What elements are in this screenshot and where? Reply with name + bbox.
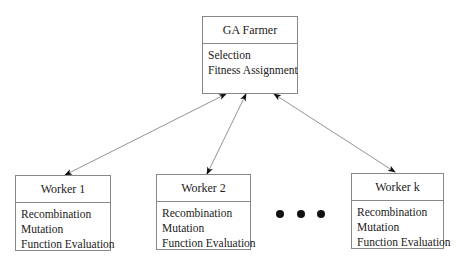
worker-1-tasks: Recombination Mutation Function Evaluati…: [16, 203, 110, 252]
ellipsis-dot: [276, 210, 284, 218]
task-item: Recombination: [21, 207, 110, 222]
arrow-farmer-worker1: [65, 94, 226, 175]
task-item: Mutation: [357, 220, 443, 235]
arrow-farmer-workerk: [274, 94, 395, 172]
worker-2-tasks: Recombination Mutation Function Evaluati…: [157, 202, 250, 251]
task-item: Selection: [208, 48, 297, 63]
worker-k-tasks: Recombination Mutation Function Evaluati…: [352, 201, 443, 250]
worker-2-title: Worker 2: [157, 175, 250, 202]
worker-2-box: Worker 2 Recombination Mutation Function…: [156, 174, 251, 250]
arrow-farmer-worker2: [207, 94, 246, 174]
ellipsis-dot: [317, 210, 325, 218]
task-item: Function Evaluation: [357, 235, 443, 250]
worker-1-box: Worker 1 Recombination Mutation Function…: [15, 175, 111, 251]
task-item: Function Evaluation: [162, 236, 250, 251]
task-item: Mutation: [162, 221, 250, 236]
task-item: Function Evaluation: [21, 237, 110, 252]
worker-k-title: Worker k: [352, 174, 443, 201]
task-item: Mutation: [21, 222, 110, 237]
worker-k-box: Worker k Recombination Mutation Function…: [351, 173, 444, 249]
ga-farmer-box: GA Farmer Selection Fitness Assignment: [202, 16, 298, 94]
worker-1-title: Worker 1: [16, 176, 110, 203]
ellipsis-dot: [297, 210, 305, 218]
ga-farmer-tasks: Selection Fitness Assignment: [203, 44, 297, 78]
task-item: Fitness Assignment: [208, 63, 297, 78]
task-item: Recombination: [162, 206, 250, 221]
task-item: Recombination: [357, 205, 443, 220]
ga-farmer-title: GA Farmer: [203, 17, 297, 44]
